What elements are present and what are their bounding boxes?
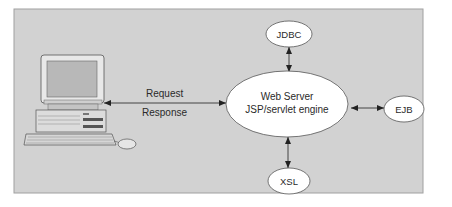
architecture-diagram: Request Response Web Server JSP/servlet … (0, 0, 452, 207)
ejb-node: EJB (384, 96, 424, 122)
xsl-node: XSL (268, 168, 310, 194)
xsl-label: XSL (280, 176, 298, 187)
ejb-label: EJB (395, 104, 412, 115)
web-server-node: Web Server JSP/servlet engine (226, 71, 348, 137)
jdbc-label: JDBC (277, 29, 302, 40)
jdbc-node: JDBC (266, 21, 312, 47)
response-label: Response (142, 107, 187, 118)
request-label: Request (146, 88, 183, 99)
web-server-label: Web Server (261, 91, 314, 102)
servlet-engine-label: JSP/servlet engine (245, 104, 329, 115)
